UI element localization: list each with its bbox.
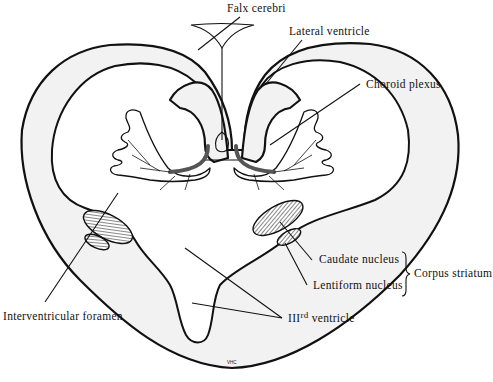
leader-falx-cerebri (198, 17, 240, 50)
label-third-ventricle: IIIrd ventricle (288, 310, 355, 324)
label-falx-cerebri: Falx cerebri (227, 2, 286, 14)
label-caudate-nucleus: Caudate nucleus (319, 253, 399, 265)
diagram-canvas: Falx cerebri Lateral ventricle Choroid p… (0, 0, 493, 382)
forebrain-diagram: Falx cerebri Lateral ventricle Choroid p… (0, 0, 493, 382)
falx-cerebri-shape (191, 24, 254, 49)
third-ventricle-prefix: III (288, 312, 300, 324)
label-lateral-ventricle: Lateral ventricle (289, 25, 370, 37)
label-choroid-plexus: Choroid plexus (366, 78, 441, 91)
label-corpus-striatum: Corpus striatum (414, 267, 492, 280)
label-lentiform-nucleus: Lentiform nucleus (313, 279, 403, 291)
label-interventricular-foramen: Interventricular foramen (3, 310, 123, 322)
third-ventricle-suffix: ventricle (309, 312, 355, 324)
artist-signature: VHC (227, 360, 237, 365)
third-ventricle-superscript: rd (300, 310, 308, 320)
